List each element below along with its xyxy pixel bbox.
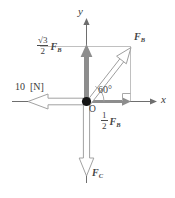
force-subscript: B — [116, 121, 120, 128]
applied-force-value: 10 — [15, 81, 25, 92]
vertical-component-vector — [81, 44, 93, 99]
vertical-component-force-symbol: FB — [50, 42, 61, 52]
fraction-denominator: 2 — [101, 121, 108, 131]
force-subscript: C — [99, 172, 103, 179]
resultant-force-label: FB — [134, 32, 145, 42]
applied-force-vector — [28, 94, 86, 109]
angle-label: 60° — [98, 85, 112, 95]
force-letter: F — [134, 31, 141, 42]
fraction-denominator: 2 — [37, 46, 48, 56]
vertical-component-fraction: √3 2 — [37, 35, 48, 57]
vertical-component-label: √3 2 FB — [37, 31, 61, 58]
fraction-numerator: 1 — [101, 110, 108, 121]
y-axis-label: y — [78, 6, 83, 17]
x-axis-label: x — [161, 94, 166, 105]
force-subscript: B — [141, 36, 145, 43]
horizontal-component-force-symbol: FB — [110, 117, 121, 127]
diagram-canvas — [0, 0, 175, 198]
force-diagram: y x O √3 2 FB FB 1 2 FB 60° 10 [N] FC — [0, 0, 175, 198]
horizontal-component-fraction: 1 2 — [101, 110, 108, 132]
fraction-numerator: √3 — [37, 35, 48, 46]
force-subscript: B — [57, 46, 61, 53]
origin-label: O — [89, 105, 96, 115]
downward-force-label: FC — [92, 168, 103, 178]
horizontal-component-label: 1 2 FB — [101, 106, 121, 133]
force-letter: F — [92, 167, 99, 178]
applied-force-unit: [N] — [30, 81, 44, 92]
applied-force-label: 10 [N] — [15, 82, 44, 92]
